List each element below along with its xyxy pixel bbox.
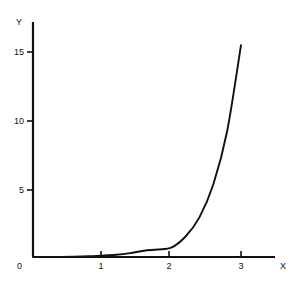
y-tick-label-5: 5 [2, 185, 24, 195]
chart-figure: Y X 0 15 10 5 1 2 3 [0, 0, 302, 286]
x-tick-label-1: 1 [91, 261, 111, 271]
x-axis-label: X [280, 261, 286, 271]
x-tick-label-2: 2 [159, 261, 179, 271]
y-axis-label: Y [16, 17, 22, 27]
y-tick-label-10: 10 [2, 116, 24, 126]
data-series-curve [33, 45, 241, 257]
y-tick-label-15: 15 [2, 47, 24, 57]
x-tick-label-3: 3 [231, 261, 251, 271]
origin-tick-label: 0 [6, 261, 22, 271]
plot-canvas [0, 0, 302, 286]
